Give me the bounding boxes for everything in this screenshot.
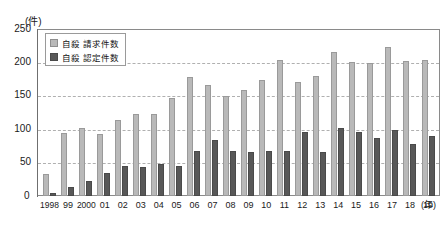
x-tick-03: 03	[132, 198, 150, 214]
bar-approved-10	[266, 151, 272, 196]
bar-approved-07	[212, 140, 218, 196]
bar-claims-03	[133, 114, 139, 196]
x-tick-05: 05	[168, 198, 186, 214]
bar-group	[166, 30, 184, 196]
bar-group	[130, 30, 148, 196]
bar-approved-08	[230, 151, 236, 196]
bar-claims-07	[205, 85, 211, 196]
bar-group	[239, 30, 257, 196]
legend-label-claims: 自殺 請求件数	[62, 37, 119, 49]
bar-group	[365, 30, 383, 196]
bar-claims-2000	[79, 128, 85, 196]
bar-approved-12	[302, 132, 308, 196]
bar-approved-05	[176, 166, 182, 196]
bar-claims-13	[313, 76, 319, 196]
y-axis-tick-labels: 25020015010050	[0, 29, 33, 196]
x-tick-10: 10	[257, 198, 275, 214]
bar-group	[293, 30, 311, 196]
x-tick-1998: 1998	[40, 198, 59, 214]
bar-group	[419, 30, 437, 196]
bar-group	[311, 30, 329, 196]
bar-claims-08	[223, 96, 229, 196]
bar-approved-09	[248, 152, 254, 196]
x-tick-99: 99	[59, 198, 77, 214]
bar-group	[347, 30, 365, 196]
legend-swatch-approved	[50, 53, 58, 61]
x-tick-02: 02	[114, 198, 132, 214]
bar-claims-99	[61, 133, 67, 196]
x-tick-09: 09	[239, 198, 257, 214]
x-tick-06: 06	[186, 198, 204, 214]
bar-approved-13	[320, 152, 326, 196]
x-tick-08: 08	[221, 198, 239, 214]
bar-group	[257, 30, 275, 196]
bar-approved-17	[392, 130, 398, 196]
y-tick-250: 250	[0, 24, 31, 34]
bar-group	[275, 30, 293, 196]
bar-claims-11	[277, 60, 283, 196]
bar-approved-01	[104, 173, 110, 196]
bar-claims-06	[187, 77, 193, 196]
bar-group	[184, 30, 202, 196]
suicide-claims-bar-chart: (件) 25020015010050 199899200001020304050…	[0, 0, 446, 230]
bar-claims-05	[169, 98, 175, 196]
y-tick-200: 200	[0, 57, 31, 67]
y-tick-150: 150	[0, 90, 31, 100]
legend-swatch-claims	[50, 39, 58, 47]
bar-group	[383, 30, 401, 196]
bar-claims-16	[367, 63, 373, 196]
bar-group	[220, 30, 238, 196]
bar-claims-02	[115, 120, 121, 196]
bar-claims-18	[403, 61, 409, 196]
x-tick-18: 18	[401, 198, 419, 214]
x-axis-tick-labels: 1998992000010203040506070809101112131415…	[38, 198, 439, 214]
bar-group	[401, 30, 419, 196]
bar-claims-17	[385, 47, 391, 196]
bar-claims-09	[241, 90, 247, 196]
y-tick-100: 100	[0, 124, 31, 134]
y-tick-50: 50	[0, 157, 31, 167]
bar-approved-19	[429, 136, 435, 196]
x-tick-2000: 2000	[77, 198, 96, 214]
bar-group	[148, 30, 166, 196]
x-tick-04: 04	[150, 198, 168, 214]
chart-legend: 自殺 請求件数 自殺 認定件数	[45, 33, 126, 66]
y-axis-zero-label: 0	[24, 190, 30, 201]
bar-approved-02	[122, 166, 128, 196]
bar-claims-12	[295, 82, 301, 196]
bar-claims-19	[422, 60, 428, 196]
x-tick-16: 16	[365, 198, 383, 214]
legend-label-approved: 自殺 認定件数	[62, 51, 119, 63]
bar-claims-1998	[43, 174, 49, 196]
x-tick-13: 13	[311, 198, 329, 214]
bar-approved-2000	[86, 181, 92, 196]
x-axis-unit-label: (年)	[421, 198, 436, 212]
x-tick-14: 14	[329, 198, 347, 214]
bar-approved-03	[140, 167, 146, 196]
x-tick-07: 07	[204, 198, 222, 214]
bar-claims-04	[151, 114, 157, 196]
x-tick-11: 11	[275, 198, 293, 214]
bar-claims-14	[331, 52, 337, 196]
legend-item-claims: 自殺 請求件数	[50, 37, 119, 48]
bar-approved-1998	[50, 193, 56, 196]
bar-claims-01	[97, 134, 103, 196]
bar-approved-06	[194, 151, 200, 196]
bar-approved-99	[68, 187, 74, 196]
bar-claims-15	[349, 62, 355, 196]
bar-approved-04	[158, 164, 164, 196]
x-tick-15: 15	[347, 198, 365, 214]
bar-approved-11	[284, 151, 290, 196]
x-tick-12: 12	[293, 198, 311, 214]
legend-item-approved: 自殺 認定件数	[50, 51, 119, 62]
x-tick-17: 17	[383, 198, 401, 214]
bar-claims-10	[259, 80, 265, 196]
bar-approved-18	[410, 144, 416, 196]
bar-group	[329, 30, 347, 196]
bar-approved-14	[338, 128, 344, 196]
bar-approved-15	[356, 132, 362, 196]
x-tick-01: 01	[96, 198, 114, 214]
bar-group	[202, 30, 220, 196]
bar-approved-16	[374, 138, 380, 196]
